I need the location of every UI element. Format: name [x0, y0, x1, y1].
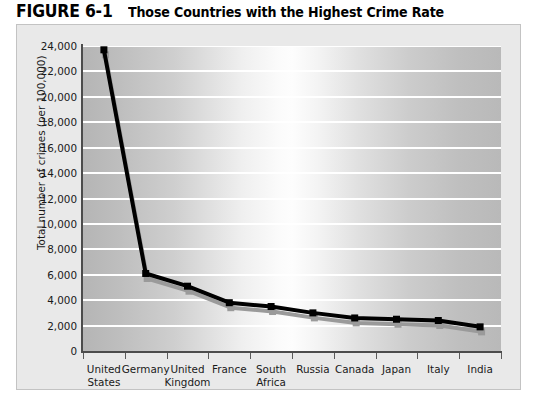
gridline	[83, 46, 501, 47]
x-tick-label: India	[437, 363, 523, 376]
y-tick-label: 18,000	[17, 117, 77, 127]
y-tick-label: 16,000	[17, 143, 77, 153]
y-tick-label: 24,000	[17, 41, 77, 51]
x-tick-mark	[208, 353, 209, 359]
x-tick-mark	[250, 353, 251, 359]
gridline	[83, 248, 501, 250]
x-tick-mark	[501, 353, 502, 359]
gridline	[83, 172, 501, 174]
gridline	[83, 147, 501, 149]
gridline	[83, 223, 501, 225]
y-tick-label: 2,000	[17, 321, 77, 331]
y-tick-label: 10,000	[17, 219, 77, 229]
figure-caption-text: Those Countries with the Highest Crime R…	[128, 5, 444, 20]
x-tick-label-line: Kingdom	[145, 376, 231, 389]
y-tick-label: 20,000	[17, 92, 77, 102]
gridline	[83, 70, 501, 72]
gridline	[83, 96, 501, 98]
y-tick-label: 6,000	[17, 270, 77, 280]
x-tick-mark	[83, 353, 84, 359]
gridline	[83, 274, 501, 276]
x-tick-label-line: India	[437, 363, 523, 376]
x-tick-mark	[292, 353, 293, 359]
gridline	[83, 325, 501, 327]
x-tick-label-line: States	[61, 376, 147, 389]
y-tick-label: 22,000	[17, 66, 77, 76]
x-tick-mark	[167, 353, 168, 359]
x-tick-label-line: Africa	[228, 376, 314, 389]
x-tick-mark	[125, 353, 126, 359]
gridline	[83, 299, 501, 301]
x-tick-mark	[417, 353, 418, 359]
x-tick-mark	[459, 353, 460, 359]
gridline	[83, 121, 501, 123]
chart-panel: Total number of crimes (per 100,000) 02,…	[16, 24, 521, 390]
y-axis-line	[81, 44, 83, 353]
x-tick-mark	[334, 353, 335, 359]
x-tick-mark	[376, 353, 377, 359]
y-tick-label: 12,000	[17, 194, 77, 204]
y-tick-label: 4,000	[17, 295, 77, 305]
y-tick-label: 0	[17, 346, 77, 356]
figure-container: FIGURE 6-1 Those Countries with the High…	[0, 0, 536, 396]
y-tick-label: 14,000	[17, 168, 77, 178]
plot-area	[83, 46, 501, 351]
y-tick-label: 8,000	[17, 244, 77, 254]
gridline	[83, 198, 501, 200]
figure-number-label: FIGURE 6-1	[16, 1, 113, 21]
figure-title: FIGURE 6-1 Those Countries with the High…	[16, 1, 457, 22]
